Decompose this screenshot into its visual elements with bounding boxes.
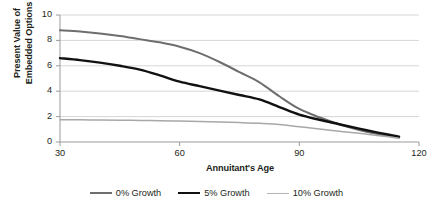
x-axis-ticks [60, 142, 419, 146]
x-tick-label-60: 60 [165, 149, 195, 158]
series-line-1 [60, 58, 399, 136]
legend-item-0[interactable]: 0% Growth [90, 188, 161, 198]
y-tick-label-4: 4 [30, 86, 52, 95]
y-tick-label-2: 2 [30, 112, 52, 121]
y-tick-label-10: 10 [30, 10, 52, 19]
y-axis-title-line-1: Present Value of [12, 0, 24, 103]
y-tick-label-6: 6 [30, 61, 52, 70]
y-axis-ticks [56, 15, 60, 142]
legend-label-1: 5% Growth [204, 188, 249, 198]
series-line-0 [60, 30, 399, 137]
legend-label-2: 10% Growth [293, 188, 344, 198]
series-group [60, 30, 399, 138]
x-tick-label-120: 120 [404, 149, 433, 158]
chart-legend: 0% Growth5% Growth10% Growth [0, 188, 433, 198]
legend-swatch-0 [90, 192, 112, 194]
legend-item-2[interactable]: 10% Growth [267, 188, 344, 198]
legend-swatch-1 [178, 192, 200, 194]
plot-area [0, 0, 433, 213]
x-axis-title: Annuitant's Age [60, 163, 420, 173]
x-tick-label-90: 90 [284, 149, 314, 158]
legend-item-1[interactable]: 5% Growth [178, 188, 249, 198]
legend-swatch-2 [267, 193, 289, 194]
y-tick-label-0: 0 [30, 137, 52, 146]
legend-label-0: 0% Growth [116, 188, 161, 198]
y-tick-label-8: 8 [30, 35, 52, 44]
series-line-2 [60, 120, 399, 138]
x-tick-label-30: 30 [45, 149, 75, 158]
chart-container: Present Value of Embedded Options Annuit… [0, 0, 433, 213]
